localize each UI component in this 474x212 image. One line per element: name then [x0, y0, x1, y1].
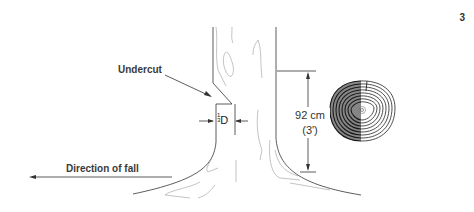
- height-dimension-label: 92 cm (3'): [290, 108, 330, 138]
- tree-felling-diagram: [0, 0, 474, 212]
- fraction-variable: D: [220, 114, 228, 126]
- height-metric: 92 cm: [290, 108, 330, 123]
- direction-of-fall-arrow: [29, 175, 172, 179]
- one-third-d-label: 1 3 D: [217, 113, 228, 126]
- height-imperial: (3'): [290, 123, 330, 138]
- page-number: 3: [459, 12, 465, 23]
- trunk-left-edge: [133, 27, 232, 194]
- undercut-label: Undercut: [118, 64, 162, 75]
- undercut-pointer-arrow: [165, 75, 212, 97]
- tree-ring-cross-section-icon: [330, 81, 395, 141]
- direction-of-fall-label: Direction of fall: [66, 163, 139, 174]
